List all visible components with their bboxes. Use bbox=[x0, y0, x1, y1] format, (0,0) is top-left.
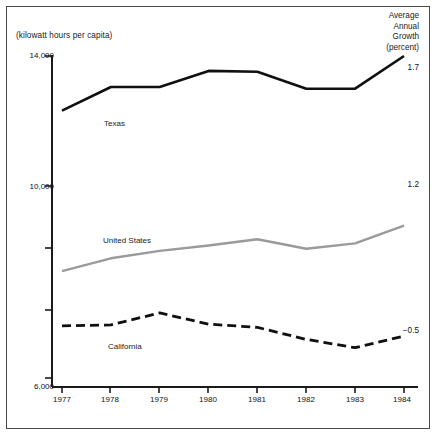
axis-lines bbox=[45, 55, 418, 393]
chart-plot-area bbox=[0, 0, 437, 436]
chart-figure: (kilowatt hours per capita) Average Annu… bbox=[0, 0, 437, 436]
data-line-united-states bbox=[62, 226, 404, 272]
data-line-california bbox=[62, 313, 404, 348]
data-line-texas bbox=[62, 56, 404, 111]
